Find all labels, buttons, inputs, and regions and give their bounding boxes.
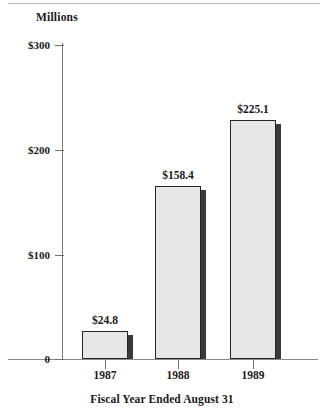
bar-chart: Millions $300 $200 $100 0 $24.8 $158.4 $… bbox=[0, 0, 324, 414]
bar-shadow-1988 bbox=[201, 190, 206, 359]
y-tick-label-100: $100 bbox=[0, 249, 50, 261]
bar-value-1987: $24.8 bbox=[65, 314, 145, 326]
y-tick-300 bbox=[55, 45, 64, 46]
x-tick-label-1988: 1988 bbox=[143, 369, 213, 381]
y-tick-100 bbox=[55, 255, 64, 256]
y-tick-200 bbox=[55, 150, 64, 151]
y-tick-label-300-wrap: $300 bbox=[0, 39, 50, 51]
y-tick-label-0: 0 bbox=[0, 353, 50, 365]
x-axis-caption: Fiscal Year Ended August 31 bbox=[0, 393, 324, 405]
y-tick-label-0-wrap: 0 bbox=[0, 353, 50, 365]
page-top-rule bbox=[8, 3, 320, 4]
bar-1987[interactable] bbox=[82, 331, 128, 359]
x-tick-1987 bbox=[105, 360, 106, 369]
x-tick-label-1989: 1989 bbox=[218, 369, 288, 381]
bar-1989[interactable] bbox=[230, 120, 276, 359]
bar-value-1988: $158.4 bbox=[138, 169, 218, 181]
x-tick-1988 bbox=[178, 360, 179, 369]
y-tick-label-200-wrap: $200 bbox=[0, 144, 50, 156]
x-tick-1989 bbox=[253, 360, 254, 369]
bar-1988[interactable] bbox=[155, 186, 201, 359]
y-tick-label-100-wrap: $100 bbox=[0, 249, 50, 261]
x-tick-label-1987: 1987 bbox=[70, 369, 140, 381]
y-axis-title: Millions bbox=[36, 11, 78, 23]
y-axis-line bbox=[62, 43, 63, 360]
bar-shadow-1989 bbox=[276, 124, 281, 359]
y-tick-0 bbox=[55, 359, 64, 360]
bar-value-1989: $225.1 bbox=[213, 103, 293, 115]
y-tick-label-200: $200 bbox=[0, 144, 50, 156]
y-tick-label-300: $300 bbox=[0, 39, 50, 51]
bar-shadow-1987 bbox=[128, 335, 133, 359]
